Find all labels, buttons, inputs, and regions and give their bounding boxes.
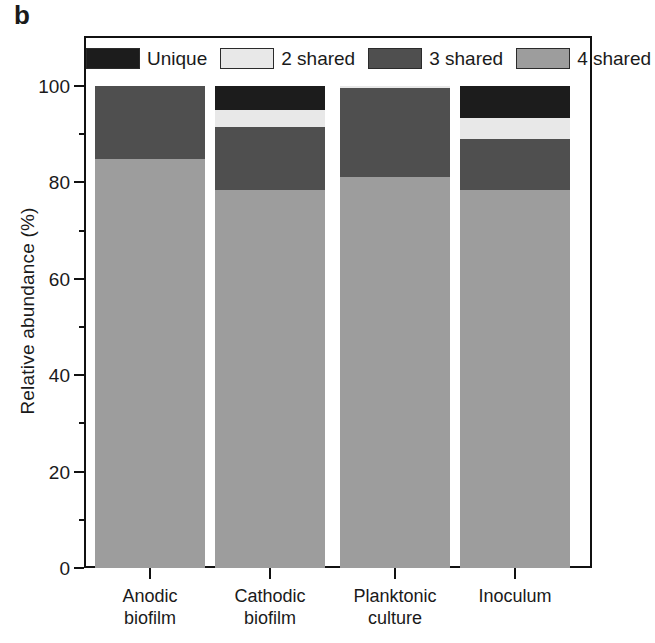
legend-swatch-icon <box>220 48 274 69</box>
bar-segment-3-shared[interactable] <box>95 86 205 159</box>
y-axis-minor-tick <box>79 230 85 232</box>
legend-item-4-shared[interactable]: 4 shared <box>516 48 655 69</box>
y-axis-tick <box>74 471 84 473</box>
y-axis-minor-tick <box>79 326 85 328</box>
chart-legend: Unique2 shared3 shared4 shared <box>86 42 655 74</box>
y-axis-tick-label: 0 <box>2 559 70 578</box>
y-axis-minor-tick <box>79 133 85 135</box>
y-axis-tick-label: 20 <box>2 462 70 481</box>
legend-label: 3 shared <box>429 49 503 68</box>
y-axis-tick <box>74 85 84 87</box>
bar-inoculum[interactable] <box>460 86 570 568</box>
y-axis-minor-tick <box>79 519 85 521</box>
bar-anodic-biofilm[interactable] <box>95 86 205 568</box>
bar-cathodic-biofilm[interactable] <box>215 86 325 568</box>
bar-segment-4-shared[interactable] <box>95 159 205 568</box>
legend-label: 4 shared <box>577 49 651 68</box>
y-axis-minor-tick <box>79 422 85 424</box>
bar-segment-unique[interactable] <box>215 86 325 110</box>
legend-item-unique[interactable]: Unique <box>86 48 220 69</box>
bar-planktonic-culture[interactable] <box>340 86 450 568</box>
y-axis-tick-labels: 020406080100 <box>0 0 70 643</box>
bar-segment-4-shared[interactable] <box>215 190 325 568</box>
legend-item-3-shared[interactable]: 3 shared <box>368 48 516 69</box>
legend-swatch-icon <box>368 48 422 69</box>
y-axis-tick-label: 100 <box>2 77 70 96</box>
y-axis-tick <box>74 567 84 569</box>
x-axis-tick-label: Inoculum <box>440 586 590 608</box>
bar-segment-3-shared[interactable] <box>340 88 450 177</box>
x-axis-tick <box>269 568 271 579</box>
legend-label: 2 shared <box>281 49 355 68</box>
y-axis-tick <box>74 278 84 280</box>
bar-segment-2-shared[interactable] <box>215 110 325 127</box>
y-axis-tick <box>74 374 84 376</box>
bar-segment-3-shared[interactable] <box>460 139 570 190</box>
x-axis-tick-label-line: culture <box>320 608 470 630</box>
y-axis-tick <box>74 181 84 183</box>
bar-segment-4-shared[interactable] <box>460 190 570 568</box>
legend-swatch-icon <box>86 48 140 69</box>
legend-swatch-icon <box>516 48 570 69</box>
plot-data-area <box>86 86 590 568</box>
x-axis-tick <box>514 568 516 579</box>
x-axis-tick <box>149 568 151 579</box>
bar-segment-4-shared[interactable] <box>340 177 450 568</box>
y-axis-tick-label: 40 <box>2 366 70 385</box>
y-axis-tick-label: 60 <box>2 269 70 288</box>
legend-item-2-shared[interactable]: 2 shared <box>220 48 368 69</box>
bar-segment-3-shared[interactable] <box>215 127 325 190</box>
bar-segment-unique[interactable] <box>460 86 570 118</box>
bar-segment-2-shared[interactable] <box>460 118 570 139</box>
legend-label: Unique <box>147 49 207 68</box>
x-axis-tick-label-line: Inoculum <box>440 586 590 608</box>
y-axis-tick-label: 80 <box>2 173 70 192</box>
x-axis-tick <box>394 568 396 579</box>
